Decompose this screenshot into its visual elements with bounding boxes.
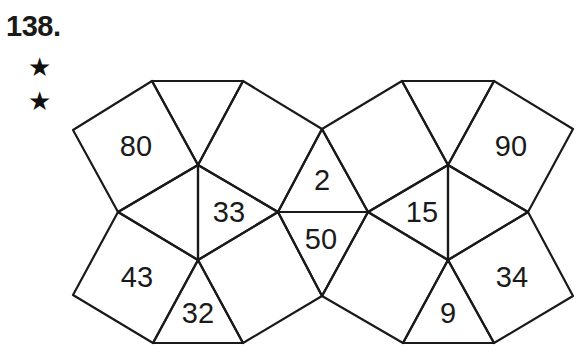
puzzle-outline — [73, 81, 573, 343]
left-lower-right-square — [198, 212, 322, 343]
right-top-triangle — [402, 81, 494, 165]
left-top-triangle — [152, 81, 243, 165]
cell-value: 15 — [406, 196, 438, 228]
puzzle-figure: 80 33 43 32 2 50 15 90 34 9 — [0, 0, 582, 358]
cell-value: 9 — [440, 297, 456, 329]
cell-value: 43 — [121, 261, 153, 293]
right-upper-left-square — [322, 81, 448, 212]
right-lower-left-square — [322, 212, 448, 343]
cell-value: 33 — [213, 196, 245, 228]
right-inner-right-triangle — [448, 165, 528, 260]
cell-numbers: 80 33 43 32 2 50 15 90 34 9 — [120, 130, 528, 329]
left-inner-left-triangle — [118, 165, 198, 260]
left-upper-right-square — [198, 81, 322, 212]
cell-value: 90 — [495, 130, 527, 162]
cell-value: 2 — [314, 164, 330, 196]
cell-value: 50 — [305, 223, 337, 255]
cell-value: 32 — [182, 297, 214, 329]
cell-value: 80 — [120, 130, 152, 162]
cell-value: 34 — [496, 261, 528, 293]
